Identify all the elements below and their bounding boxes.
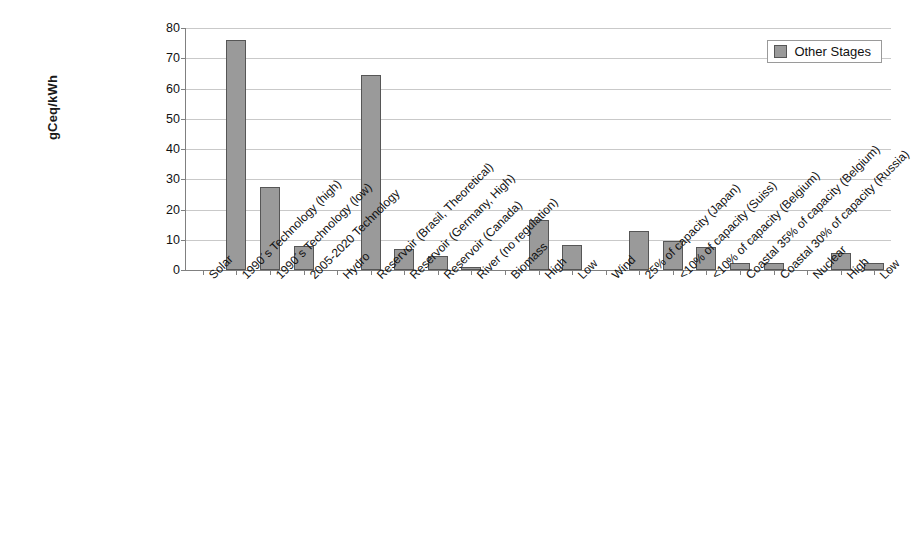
bar-slot	[623, 28, 657, 270]
y-tick-label: 30	[166, 172, 180, 186]
y-tick-label: 50	[166, 112, 180, 126]
y-tick-label: 20	[166, 203, 180, 217]
y-tick-label: 70	[166, 51, 180, 65]
y-tick-label: 10	[166, 233, 180, 247]
bar-slot	[186, 28, 220, 270]
y-tick-label: 40	[166, 142, 180, 156]
bar-slot	[589, 28, 623, 270]
x-axis-labels: Solar1990´s Technology (high)1990´s Tech…	[185, 272, 890, 522]
bar-slot	[555, 28, 589, 270]
chart-legend: Other Stages	[767, 40, 882, 63]
bar	[226, 40, 246, 270]
y-tick-mark	[181, 270, 186, 271]
bar-slot	[220, 28, 254, 270]
y-axis-title: gCeq/kWh	[45, 38, 60, 178]
bar	[361, 75, 381, 270]
legend-swatch-icon	[774, 45, 787, 58]
y-tick-label: 80	[166, 21, 180, 35]
y-tick-label: 60	[166, 82, 180, 96]
legend-label-other-stages: Other Stages	[794, 44, 871, 59]
y-tick-label: 0	[173, 263, 180, 277]
